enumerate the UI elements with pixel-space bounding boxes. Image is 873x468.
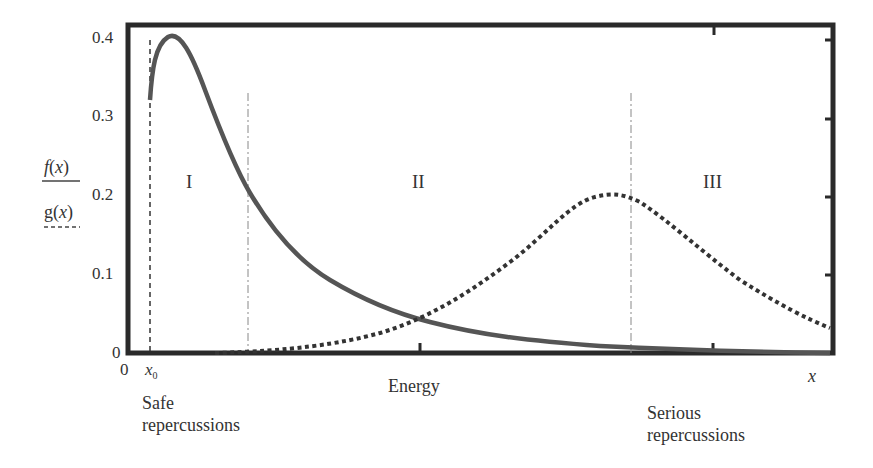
- region-label-3: III: [703, 171, 722, 193]
- x-axis-label: Energy: [388, 376, 440, 397]
- annotation-serious-line1: Serious: [647, 402, 745, 424]
- x-ticks: [420, 25, 714, 353]
- annotation-safe-line2: repercussions: [142, 414, 240, 436]
- annotation-serious: Serious repercussions: [647, 402, 745, 446]
- y-tick-0.3: 0.3: [92, 106, 113, 126]
- plot-frame: [128, 25, 833, 353]
- legend-f-label: f(x): [44, 157, 69, 178]
- y-tick-0.4: 0.4: [92, 28, 113, 48]
- legend-g-label: g(x): [44, 202, 73, 223]
- region-label-2: II: [412, 171, 425, 193]
- region-label-1: I: [186, 171, 192, 193]
- y-tick-0.1: 0.1: [92, 264, 113, 284]
- x-axis-symbol: x: [808, 366, 816, 387]
- series-g-curve: [215, 195, 830, 353]
- series-f-curve: [150, 36, 830, 353]
- annotation-safe-line1: Safe: [142, 392, 240, 414]
- annotation-safe: Safe repercussions: [142, 392, 240, 436]
- y-tick-0.2: 0.2: [92, 185, 113, 205]
- x-tick-x0: x0: [145, 360, 158, 381]
- annotation-serious-line2: repercussions: [647, 424, 745, 446]
- chart-canvas: [0, 0, 873, 468]
- x-tick-0: 0: [120, 360, 129, 380]
